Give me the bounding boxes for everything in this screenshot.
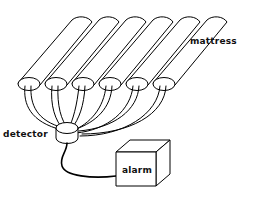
detector-top: [56, 123, 78, 134]
mattress-label: mattress: [190, 36, 237, 46]
tube-end-cap: [99, 78, 121, 91]
detector-body: [56, 123, 78, 144]
sensor-wire: [25, 86, 62, 130]
alarm-label: alarm: [122, 165, 152, 175]
tube-end-cap: [18, 78, 40, 91]
sensor-wire: [58, 86, 68, 128]
sensor-wire: [82, 86, 166, 134]
detector-to-alarm-cable: [61, 143, 116, 177]
tube-end-cap: [126, 78, 148, 91]
tube-end-cap: [72, 78, 94, 91]
sensor-wire: [72, 86, 106, 131]
figure-container: mattress detector alarm a maan tha anmna…: [0, 0, 253, 203]
sensor-wire: [79, 86, 139, 131]
tube-end-cap: [45, 78, 67, 91]
mattress-alarm-diagram: mattress detector alarm: [0, 0, 253, 203]
mattress-tubes: [18, 17, 227, 91]
sensor-wire: [80, 86, 160, 136]
tube-end-cap: [153, 78, 175, 91]
clipped-caption-strip: a maan tha anmnaa aannat han a ann nd fl…: [0, 194, 253, 203]
clipped-caption-text: a maan tha anmnaa aannat han a ann nd fl…: [8, 194, 253, 196]
alarm-box: [116, 140, 170, 186]
detector-label: detector: [3, 129, 48, 139]
